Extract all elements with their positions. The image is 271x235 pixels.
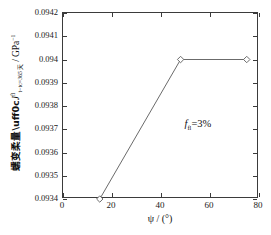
y-axis-tick-label: 0.0938 [35, 101, 58, 110]
y-axis-label-cjk: 蠕变柔量 [10, 131, 21, 171]
data-point-marker [177, 56, 183, 62]
y-axis-tick-label: 0.0935 [35, 171, 58, 180]
x-axis-tick-mark [259, 13, 260, 17]
y-axis-label-symbol: J [11, 96, 21, 100]
data-point-marker [97, 196, 103, 202]
x-axis-tick-label: 20 [107, 201, 116, 210]
y-axis-tick-label: 0.0941 [35, 31, 58, 40]
chart-figure: 0.09340.09350.09360.09370.09380.09390.09… [0, 0, 271, 235]
series-line [100, 60, 247, 200]
y-axis-tick-label: 0.094 [39, 54, 58, 63]
data-series-layer [63, 13, 259, 199]
y-axis-tick-mark [63, 199, 67, 200]
y-axis-tick-mark [253, 199, 257, 200]
x-axis-tick-mark [259, 193, 260, 197]
x-axis-tick-label: 0 [60, 201, 65, 210]
y-axis-tick-label: 0.0942 [35, 8, 58, 17]
annotation-text: =3% [191, 118, 211, 129]
y-axis-tick-label: 0.0934 [35, 194, 58, 203]
y-axis-label-comma: \uff0c [10, 100, 21, 130]
annotation-fiber-fraction: ffl=3% [185, 119, 212, 132]
x-axis-tick-label: 60 [205, 201, 214, 210]
x-axis-tick-label: 40 [156, 201, 165, 210]
y-axis-tick-label: 0.0937 [35, 124, 58, 133]
y-axis-label-units: GPa [11, 41, 21, 57]
y-axis-label-units-exponent: −1 [10, 34, 16, 40]
y-axis-label-superscript: fl [10, 93, 16, 97]
x-axis-tick-label: 80 [254, 201, 263, 210]
plot-area [62, 12, 258, 198]
y-axis-label-subscript: t−tᴄ=365 天 [17, 64, 23, 93]
y-axis-label: 蠕变柔量\uff0cJflt−tᴄ=365 天 / GPa−1 [11, 7, 24, 197]
x-axis-label: ψ / (°) [62, 214, 258, 224]
y-axis-label-slash: / [11, 57, 21, 63]
y-axis-tick-label: 0.0939 [35, 78, 58, 87]
data-point-marker [244, 56, 250, 62]
y-axis-tick-label: 0.0936 [35, 147, 58, 156]
